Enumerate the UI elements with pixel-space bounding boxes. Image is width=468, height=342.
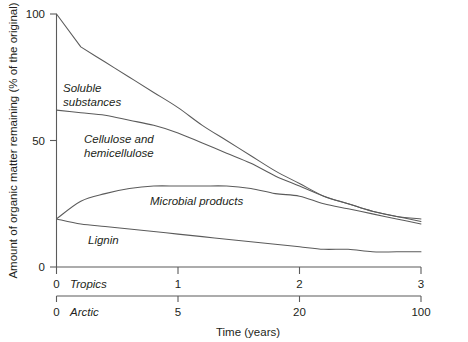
tropics-label-3: 3 [418, 278, 424, 290]
tropics-label-0: 0 [53, 278, 59, 290]
arctic-label-100: 100 [411, 306, 430, 318]
label-cellulose-line2: hemicellulose [84, 147, 154, 159]
x-axis-title: Time (years) [216, 326, 280, 338]
tropics-region-label: Tropics [70, 278, 107, 290]
arctic-region-label: Arctic [69, 306, 99, 318]
y-axis-title: Amount of organic matter remaining (% of… [7, 2, 19, 278]
label-lignin: Lignin [88, 234, 119, 246]
decomposition-chart-figure: 100 50 0 Amount of organic matter remain… [0, 0, 468, 342]
tropics-label-1: 1 [175, 278, 181, 290]
arctic-axis-line [57, 296, 422, 302]
label-microbial-products: Microbial products [150, 195, 244, 207]
arctic-label-5: 5 [175, 306, 181, 318]
arctic-label-0: 0 [53, 306, 59, 318]
label-soluble-line1: Soluble [63, 82, 101, 94]
chart-svg: 100 50 0 Amount of organic matter remain… [0, 0, 468, 342]
arctic-label-20: 20 [293, 306, 306, 318]
tropics-label-2: 2 [296, 278, 302, 290]
y-tick-label-0: 0 [39, 261, 45, 273]
label-soluble-line2: substances [63, 96, 121, 108]
y-tick-label-100: 100 [26, 8, 45, 20]
label-cellulose-line1: Cellulose and [84, 133, 154, 145]
y-tick-label-50: 50 [32, 135, 45, 147]
